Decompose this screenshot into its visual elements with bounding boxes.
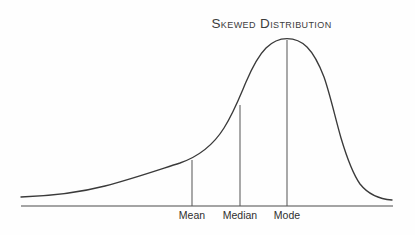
density-curve <box>21 39 392 200</box>
skewed-distribution-figure: Skewed Distribution Mean Median Mode <box>0 0 415 235</box>
tick-label-median: Median <box>223 209 257 221</box>
tick-label-mode: Mode <box>274 209 300 221</box>
tick-label-mean: Mean <box>179 209 205 221</box>
distribution-plot <box>0 0 415 235</box>
